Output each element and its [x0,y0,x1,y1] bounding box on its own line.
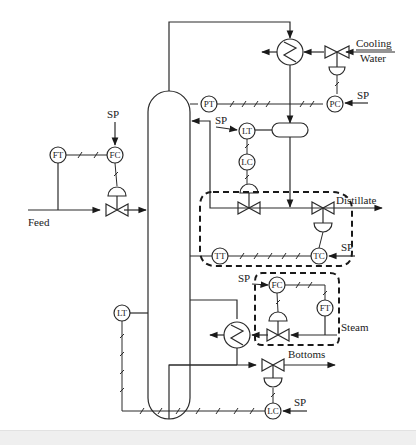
svg-text:LT: LT [117,308,128,318]
feed-valve [106,187,128,216]
ft-to-fc-signal [285,285,325,300]
steam-fc-setpoint-label: SP [238,272,250,284]
svg-text:PT: PT [204,99,215,109]
bottom-lc-setpoint-label: SP [294,396,306,408]
temperature-transmitter: TT [212,248,228,264]
distillation-control-diagram: Cooling Water PT PC SP LT SP LC [0,0,416,430]
pressure-controller: PC [327,96,343,112]
reflux-drum [272,123,308,137]
valve-actuator-icon [108,187,126,196]
lt-setpoint-arrow [216,127,237,130]
temperature-controller: TC [311,248,327,264]
svg-text:FC: FC [271,280,282,290]
reflux-level-controller: LC [239,154,255,170]
feed-flow-controller: FC [107,147,123,163]
reboiler-feed-line [190,300,237,319]
valve-actuator-icon [314,223,332,232]
svg-text:LT: LT [242,126,253,136]
svg-text:FC: FC [109,150,120,160]
feed-label: Feed [28,216,50,228]
lt-setpoint-label: SP [215,114,227,126]
svg-text:TT: TT [215,251,226,261]
distillate-label: Distillate [336,194,376,206]
steam-valve [267,312,289,341]
svg-text:LC: LC [267,406,279,416]
footer-strip [0,430,416,445]
steam-label: Steam [341,321,369,333]
pc-setpoint-label: SP [357,89,369,101]
cooling-water-valve [325,46,349,75]
feed-flow-transmitter: FT [50,147,66,163]
bottom-level-transmitter: LT [114,305,130,321]
svg-text:FT: FT [320,303,331,313]
cooling-water-label-1: Cooling [356,37,392,49]
tc-to-valve-signal [319,232,323,248]
bottoms-label: Bottoms [288,348,325,360]
reflux-valve [238,184,260,214]
steam-flow-transmitter: FT [317,300,333,316]
condenser [277,39,303,65]
svg-text:FT: FT [53,150,64,160]
valve-actuator-icon [269,312,287,321]
svg-text:LC: LC [241,157,253,167]
distillate-valve [312,202,334,232]
feed-fc-setpoint-label: SP [107,108,119,120]
pressure-transmitter: PT [201,96,217,112]
svg-text:PC: PC [329,99,340,109]
bottom-level-controller: LC [265,403,281,419]
svg-text:TC: TC [313,251,325,261]
steam-flow-controller: FC [269,277,285,293]
reboiler [224,322,250,348]
overhead-vapor-line [169,22,290,91]
bottoms-valve [262,359,284,387]
cooling-water-label-2: Water [360,52,386,64]
valve-actuator-icon [264,378,282,387]
reflux-level-transmitter: LT [239,123,255,139]
valve-actuator-icon [329,67,345,75]
signal-ticks-steam [296,282,327,295]
